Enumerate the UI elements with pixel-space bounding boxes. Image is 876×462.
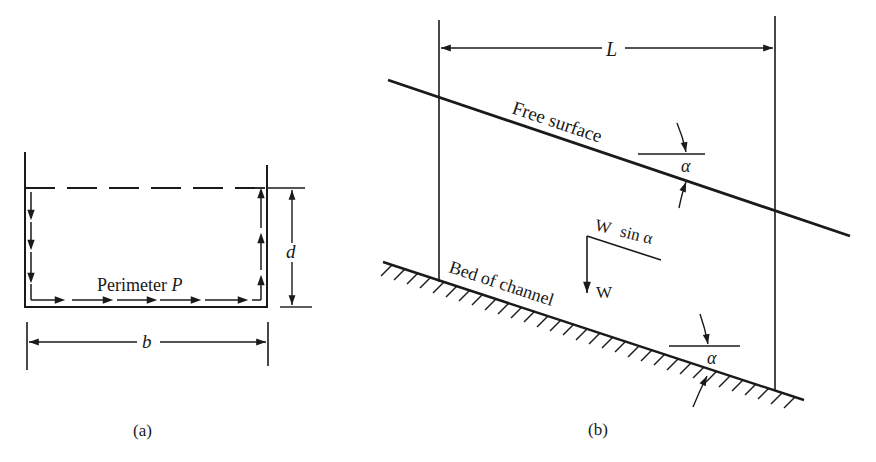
angle-arrow-top-lower [679,182,686,208]
angle-arrow-bottom-lower [693,376,707,407]
free-surface-line [388,80,850,236]
weight-component-label: W sin α [593,215,655,248]
figure-a-channel-section [25,152,312,370]
caption-b: (b) [588,420,608,439]
bed-line [383,262,804,400]
weight-label: W [596,283,613,302]
angle-arrow-bottom-upper [700,314,708,344]
angle-arrow-top-upper [677,123,686,152]
caption-a: (a) [133,421,152,440]
figure-canvas: Perimeter P d b (a) [0,0,876,462]
perimeter-label: Perimeter P [97,275,182,295]
angle-alpha-bottom: α [707,348,717,368]
figure-b-channel-slope [381,16,850,408]
angle-alpha-top: α [681,156,691,176]
width-symbol: b [142,331,152,352]
depth-symbol: d [286,241,296,262]
length-symbol: L [605,38,617,60]
free-surface-label: Free surface [510,97,605,147]
bed-hatching [381,265,795,408]
